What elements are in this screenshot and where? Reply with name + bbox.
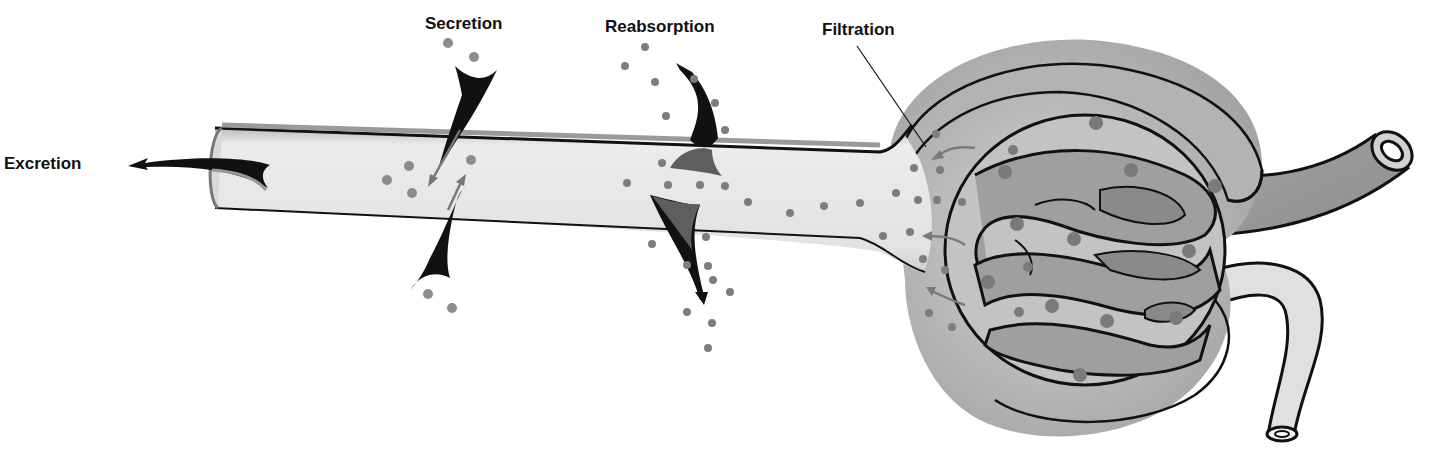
efferent-arteriole [1215,263,1322,441]
glomerulus [945,115,1225,385]
secretion-label: Secretion [425,14,502,34]
diagram-canvas [0,0,1442,459]
nephron-diagram: Excretion Secretion Reabsorption Filtrat… [0,0,1442,459]
filtration-label: Filtration [822,20,895,40]
reabsorption-label: Reabsorption [605,17,715,37]
renal-tubule [210,125,932,272]
excretion-label: Excretion [4,154,81,174]
filtration-leader-line [857,46,926,147]
